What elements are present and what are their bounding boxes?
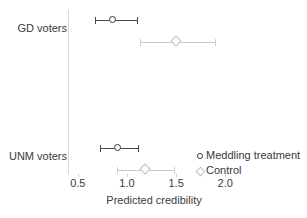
x-tick-label: 0.5 <box>70 177 85 190</box>
legend-label-control: Control <box>206 164 241 177</box>
legend-label-meddling-treatment: Meddling treatment <box>206 149 300 162</box>
x-tick-label: 2.0 <box>218 177 233 190</box>
circle-marker-icon[interactable] <box>109 16 116 23</box>
error-bar-cap <box>100 145 101 152</box>
category-label-gd-voters: GD voters <box>17 22 67 34</box>
x-axis: 0.51.01.52.0 Predicted credibility <box>68 174 240 218</box>
coefficient-plot: GD voters UNM voters 0.51.01.52.0 Predic… <box>0 0 307 218</box>
error-bar-cap <box>138 145 139 152</box>
data-point-group <box>68 14 240 26</box>
x-axis-title: Predicted credibility <box>68 194 240 207</box>
diamond-marker-icon[interactable] <box>170 35 181 46</box>
legend-entry-control[interactable]: Control <box>192 163 307 178</box>
x-tick-label: 1.5 <box>168 177 183 190</box>
data-point-group <box>68 36 240 48</box>
circle-marker-icon <box>192 149 206 163</box>
error-bar-cap <box>95 17 96 24</box>
category-label-unm-voters: UNM voters <box>9 150 67 162</box>
legend: Meddling treatment Control <box>192 148 307 178</box>
error-bar-cap <box>140 39 141 46</box>
error-bar-cap <box>174 167 175 174</box>
error-bar-cap <box>137 17 138 24</box>
diamond-marker-icon <box>192 164 206 178</box>
legend-entry-meddling-treatment[interactable]: Meddling treatment <box>192 148 307 163</box>
error-bar-cap <box>215 39 216 46</box>
x-tick-label: 1.0 <box>119 177 134 190</box>
diamond-marker-icon[interactable] <box>139 163 150 174</box>
circle-marker-icon[interactable] <box>114 144 121 151</box>
error-bar-cap <box>117 167 118 174</box>
